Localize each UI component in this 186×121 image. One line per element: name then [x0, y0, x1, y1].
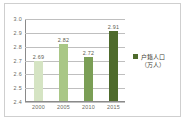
- chart-frame: 3.02.92.82.72.62.52.4 2.6920002.8220052.…: [4, 3, 181, 117]
- bar[interactable]: [34, 61, 43, 101]
- x-axis-tick-label: 2005: [57, 104, 70, 110]
- plot-area: 3.02.92.82.72.62.52.4 2.6920002.8220052.…: [25, 19, 125, 102]
- bars-layer: 2.6920002.8220052.7220102.912015: [26, 19, 125, 101]
- bar[interactable]: [59, 44, 68, 101]
- bar-value-label: 2.82: [58, 37, 69, 43]
- bar-value-label: 2.72: [83, 50, 94, 56]
- legend: 户籍人口 （万人）: [133, 53, 165, 68]
- y-axis-tick-label: 2.7: [14, 58, 22, 64]
- bar-group: 2.722010: [76, 19, 101, 101]
- x-axis-tick-label: 2000: [32, 104, 45, 110]
- legend-label-line-1: 户籍人口: [141, 53, 165, 61]
- bar-value-label: 2.69: [33, 54, 44, 60]
- legend-label-line-2: （万人）: [141, 61, 165, 69]
- gridline: [25, 102, 125, 103]
- y-axis-tick-label: 3.0: [14, 16, 22, 22]
- legend-swatch: [133, 54, 138, 59]
- bar-group: 2.822005: [51, 19, 76, 101]
- y-axis-tick-label: 2.9: [14, 30, 22, 36]
- y-axis-tick-label: 2.5: [14, 85, 22, 91]
- bar-group: 2.692000: [26, 19, 51, 101]
- bar-value-label: 2.91: [108, 24, 119, 30]
- bar[interactable]: [109, 31, 118, 101]
- y-axis-tick-label: 2.8: [14, 44, 22, 50]
- bar[interactable]: [84, 57, 93, 101]
- bar-group: 2.912015: [101, 19, 126, 101]
- x-axis-tick-label: 2015: [107, 104, 120, 110]
- x-axis-tick-label: 2010: [82, 104, 95, 110]
- y-axis-tick-label: 2.4: [14, 99, 22, 105]
- y-axis-tick-label: 2.6: [14, 71, 22, 77]
- legend-label: 户籍人口 （万人）: [141, 53, 165, 68]
